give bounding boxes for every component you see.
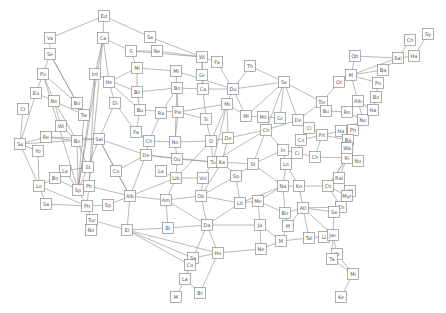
graph-node: El [122, 225, 133, 236]
node-label: Cr [20, 106, 26, 112]
node-label: M [174, 294, 178, 300]
node-label: Ho [215, 250, 222, 256]
node-label: Bir [282, 210, 290, 216]
node-label: Am [162, 197, 170, 203]
graph-node: Int [90, 69, 101, 80]
graph-node: Vol [198, 173, 209, 184]
node-label: Gr [199, 72, 206, 78]
graph-node: Va [45, 33, 56, 44]
node-label: Mi [134, 65, 140, 71]
node-label: La [62, 168, 68, 174]
graph-node: O [206, 136, 217, 147]
graph-node: S [126, 46, 137, 57]
node-label: M [349, 72, 353, 78]
graph-node: De [223, 133, 234, 144]
node-label: Cl [307, 125, 312, 131]
graph-edge [104, 16, 150, 37]
node-label: Ca [200, 86, 207, 92]
node-label: No [355, 158, 362, 164]
graph-node: Da [202, 220, 213, 231]
node-label: Ed [101, 13, 107, 19]
graph-node: Lo [281, 159, 292, 170]
node-label: Sp [105, 202, 111, 209]
node-label: Co [187, 262, 194, 268]
node-label: Sp [75, 187, 81, 194]
node-label: O [209, 138, 213, 144]
graph-node: Sp [231, 171, 242, 182]
node-label: Ou [173, 156, 180, 162]
graph-node: Co [185, 260, 196, 271]
graph-node: Wi [56, 121, 67, 132]
graph-node: No [86, 225, 97, 236]
graph-node: Myr [342, 191, 353, 202]
node-label: Bo [174, 85, 181, 91]
node-label: Ha [411, 53, 418, 59]
graph-node: Tw [79, 110, 90, 121]
graph-node: Me [253, 196, 264, 207]
graph-edge [103, 38, 109, 82]
graph-node: Alb [125, 191, 136, 202]
graph-node: Alb [353, 96, 364, 107]
graph-node: Lit [235, 198, 246, 209]
node-label: Ha [338, 128, 345, 134]
node-label: Li [322, 234, 326, 240]
graph-edge [233, 82, 284, 89]
node-label: Ch [263, 127, 270, 133]
node-label: Tu [209, 159, 215, 165]
graph-node: Lib [171, 173, 182, 184]
graph-edge [89, 186, 130, 196]
node-label: Se [47, 51, 53, 57]
graph-node: Ph [84, 181, 95, 192]
graph-edge [166, 200, 207, 225]
node-label: M [279, 238, 283, 244]
graph-node: Ch [323, 181, 334, 192]
graph-node: Bo [50, 173, 61, 184]
graph-node: M [283, 221, 294, 232]
node-label: Bil [134, 89, 140, 95]
graph-node: Ok [196, 191, 207, 202]
graph-node: Cl [304, 123, 315, 134]
node-label: Lib [172, 175, 179, 181]
node-label: Du [229, 86, 236, 92]
node-label: Si [204, 116, 209, 122]
graph-node: La [60, 166, 71, 177]
node-label: Mi [243, 113, 249, 119]
graph-edge [95, 74, 137, 92]
graph-edge [20, 139, 99, 144]
graph-node: Ka [217, 157, 228, 168]
graph-edge [137, 88, 177, 92]
node-label: Mi [224, 101, 230, 107]
graph-node: Sa [329, 207, 340, 218]
node-label: S [129, 48, 132, 54]
node-label: El [125, 227, 130, 233]
graph-node: Ra [156, 108, 167, 119]
node-label: Bo [373, 94, 380, 100]
node-label: Co [113, 168, 120, 174]
graph-edge [127, 228, 168, 230]
graph-node: Ha [409, 51, 420, 62]
graph-node: Se [279, 77, 290, 88]
graph-node: Pie [173, 107, 184, 118]
graph-node: Br [195, 288, 206, 299]
graph-node: Bo [371, 92, 382, 103]
graph-edge [355, 56, 398, 58]
graph-node: Yo [33, 146, 44, 157]
node-label: St [250, 161, 255, 167]
graph-node: Ri [342, 153, 353, 164]
node-label: No [88, 227, 95, 233]
graph-node: Bo [72, 98, 83, 109]
graph-node: M [346, 70, 357, 81]
graph-node: Si [201, 114, 212, 125]
graph-node: Bi [163, 223, 174, 234]
node-label: Ja [257, 222, 263, 228]
graph-node: Ne [49, 96, 60, 107]
node-label: Vol [199, 175, 206, 181]
node-label: Di [112, 100, 117, 106]
graph-edge [201, 196, 240, 203]
node-label: Va [47, 35, 53, 41]
graph-node: Co [296, 135, 307, 146]
node-label: Ot [336, 79, 342, 85]
node-label: Ne [258, 246, 265, 252]
graph-node: Mi [348, 269, 359, 280]
graph-node: Mil [258, 112, 269, 123]
